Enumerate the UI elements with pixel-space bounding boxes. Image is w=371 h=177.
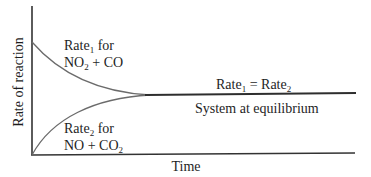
rate2-label-line1: Rate2 for	[64, 121, 114, 138]
x-axis-label: Time	[171, 159, 200, 174]
equilibrium-annotation: System at equilibrium	[195, 101, 319, 116]
equilibrium-rate-chart: Rate of reaction Time Rate1 for NO2 + CO…	[0, 0, 371, 177]
rate1-label-line2: NO2 + CO	[64, 55, 123, 72]
rate1-label-line1: Rate1 for	[64, 38, 114, 55]
y-axis-label: Rate of reaction	[11, 37, 26, 126]
rate2-label-line2: NO + CO2	[64, 138, 123, 155]
rates-equal-annotation: Rate1 = Rate2	[216, 77, 291, 94]
x-axis	[31, 153, 355, 155]
equilibrium-line	[145, 93, 356, 95]
co2-subscript: 2	[119, 145, 124, 155]
